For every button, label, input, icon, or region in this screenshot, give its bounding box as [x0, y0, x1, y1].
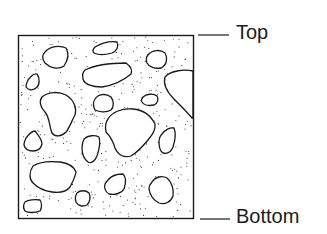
stone	[105, 109, 155, 157]
stone	[43, 46, 68, 68]
stone	[93, 42, 118, 55]
stone	[24, 131, 42, 151]
stone	[149, 177, 173, 204]
stone	[75, 191, 90, 206]
stone	[159, 128, 175, 153]
aggregate-stones	[24, 42, 194, 213]
stone	[164, 70, 193, 118]
top-label: Top	[236, 22, 268, 42]
bottom-label: Bottom	[236, 206, 299, 226]
stone	[94, 95, 114, 112]
stone	[26, 74, 39, 90]
stone	[82, 136, 100, 163]
stone	[146, 51, 166, 69]
stone	[24, 200, 42, 213]
stone	[83, 63, 132, 87]
stone	[105, 174, 126, 194]
stone	[40, 93, 75, 136]
stone	[142, 94, 158, 105]
material-cross-section-diagram	[0, 0, 327, 234]
stone	[30, 162, 76, 193]
